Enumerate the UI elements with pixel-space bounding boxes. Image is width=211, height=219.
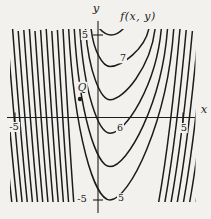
point-q-dot bbox=[78, 97, 82, 101]
y-tick-label-neg5: -5 bbox=[76, 194, 88, 204]
contour-plot-svg bbox=[0, 0, 211, 219]
x-tick-label-neg5: -5 bbox=[8, 122, 20, 132]
contour-curve bbox=[99, 28, 124, 35]
y-axis-label: y bbox=[93, 3, 100, 15]
contour-figure: f(x, y) y x 5 -5 5 -5 7 6 5 Q bbox=[0, 0, 211, 219]
contour-curve bbox=[52, 31, 64, 206]
contour-label-7: 7 bbox=[119, 53, 127, 63]
point-q-label: Q bbox=[77, 82, 88, 93]
contour-curve bbox=[195, 29, 211, 206]
plot-title: f(x, y) bbox=[120, 11, 156, 22]
y-tick-label-5: 5 bbox=[81, 30, 89, 40]
contour-label-5: 5 bbox=[117, 193, 125, 203]
contour-label-6: 6 bbox=[116, 123, 124, 133]
x-axis-label: x bbox=[201, 104, 208, 116]
x-tick-label-5: 5 bbox=[180, 123, 188, 133]
contour-curve bbox=[189, 31, 211, 206]
